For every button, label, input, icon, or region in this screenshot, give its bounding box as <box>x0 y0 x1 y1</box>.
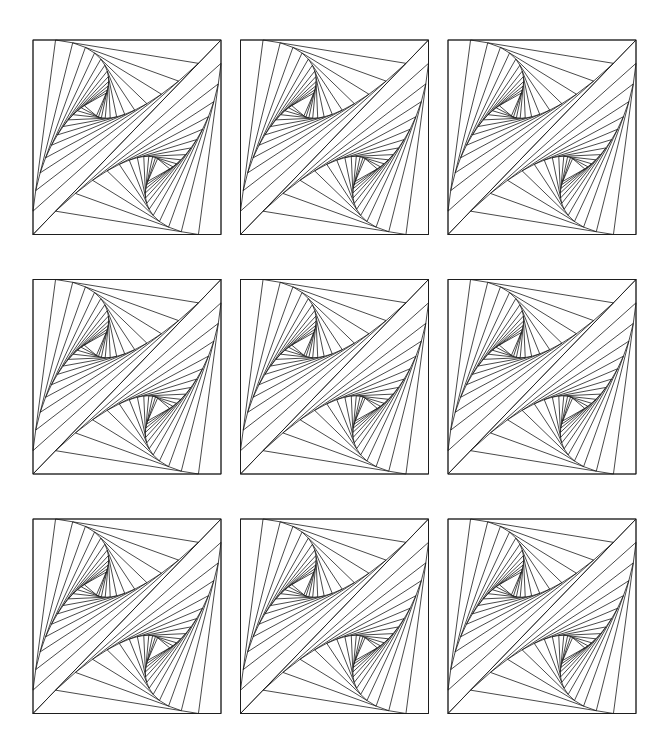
nested-triangle <box>241 40 429 235</box>
pattern-tile <box>241 519 429 714</box>
pattern-tile <box>33 519 221 714</box>
pattern-tile <box>33 280 221 475</box>
pattern-tile <box>33 40 221 235</box>
lower-spiral <box>241 40 429 235</box>
lower-spiral <box>241 519 429 714</box>
nested-triangle <box>33 40 221 235</box>
lower-spiral <box>33 519 221 714</box>
lower-spiral <box>448 40 636 235</box>
nested-triangle <box>33 280 221 475</box>
lower-spiral <box>448 280 636 475</box>
pattern-tile <box>448 519 636 714</box>
nested-triangle <box>241 519 429 714</box>
pattern-tile <box>241 40 429 235</box>
lower-spiral <box>33 280 221 475</box>
pattern-tile <box>448 40 636 235</box>
lower-spiral <box>241 280 429 475</box>
lower-spiral <box>448 519 636 714</box>
nested-triangle <box>448 519 636 714</box>
lower-spiral <box>33 40 221 235</box>
nested-triangle <box>448 280 636 475</box>
nested-triangle <box>241 280 429 475</box>
pattern-tile <box>448 280 636 475</box>
pattern-canvas <box>0 0 669 746</box>
nested-triangle <box>33 519 221 714</box>
pattern-tile <box>241 280 429 475</box>
nested-triangle <box>448 40 636 235</box>
